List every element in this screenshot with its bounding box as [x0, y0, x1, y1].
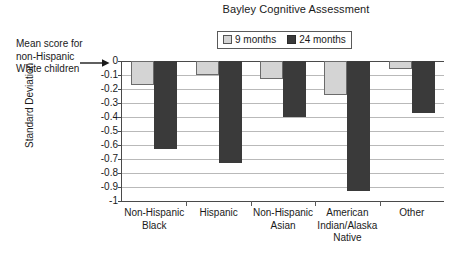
- x-axis-tick-mark: [380, 201, 381, 206]
- bar-chart: Bayley Cognitive Assessment 9 months 24 …: [0, 0, 458, 256]
- chart-title: Bayley Cognitive Assessment: [196, 3, 396, 15]
- x-axis-tick-mark: [186, 201, 187, 206]
- gridline: [122, 173, 444, 174]
- bar: [219, 61, 242, 163]
- bar: [347, 61, 370, 191]
- y-axis-tick-label: -0.5: [96, 126, 118, 136]
- y-axis-tick-label: -0.4: [96, 112, 118, 122]
- bar: [283, 61, 306, 117]
- bar: [324, 61, 347, 95]
- chart-legend: 9 months 24 months: [217, 31, 352, 49]
- y-axis-tick-label: -0.8: [96, 168, 118, 178]
- y-axis-tick-label: -0.7: [96, 154, 118, 164]
- y-axis-tick-label: -0.1: [96, 70, 118, 80]
- bar: [154, 61, 177, 149]
- x-axis-category-labels: Non-Hispanic BlackHispanicNon-Hispanic A…: [122, 207, 444, 253]
- gridline: [122, 187, 444, 188]
- bar: [131, 61, 154, 85]
- y-axis-tick-label: -0.9: [96, 182, 118, 192]
- y-axis-tick-label: -1: [96, 196, 118, 206]
- legend-swatch-24-months: [287, 35, 296, 44]
- legend-label-9-months: 9 months: [235, 34, 276, 45]
- bar: [260, 61, 283, 79]
- bar: [412, 61, 435, 113]
- x-axis-tick-mark: [315, 201, 316, 206]
- legend-item-9-months: 9 months: [223, 34, 276, 45]
- legend-label-24-months: 24 months: [299, 34, 346, 45]
- y-axis-tick-label: -0.3: [96, 98, 118, 108]
- y-axis-tick-label: -0.2: [96, 84, 118, 94]
- y-axis-tick-label: -0.6: [96, 140, 118, 150]
- x-axis-category-label: Other: [372, 207, 452, 220]
- gridline: [122, 159, 444, 160]
- x-axis-tick-mark: [251, 201, 252, 206]
- bar: [389, 61, 412, 69]
- plot-area: [122, 61, 444, 201]
- y-axis-title: Standard Deviation: [24, 46, 35, 166]
- legend-item-24-months: 24 months: [287, 34, 346, 45]
- bar: [196, 61, 219, 75]
- y-axis-tick-label: 0: [96, 56, 118, 66]
- legend-swatch-9-months: [223, 35, 232, 44]
- gridline: [122, 201, 444, 202]
- y-axis-tick-labels: 0-0.1-0.2-0.3-0.4-0.5-0.6-0.7-0.8-0.9-1: [94, 61, 118, 201]
